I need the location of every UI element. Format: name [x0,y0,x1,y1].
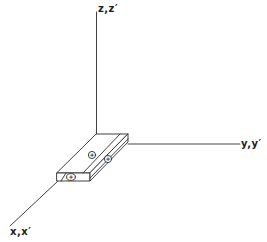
coordinate-diagram: + + + [0,0,267,242]
charge-symbol: + [105,155,110,162]
charge-symbol: + [89,151,94,158]
x-axis [10,181,58,226]
z-axis-label: z,z′ [98,3,118,14]
y-axis-label: y,y′ [241,138,262,149]
charge-symbol: + [68,173,73,180]
x-axis-label: x,x′ [10,226,31,237]
